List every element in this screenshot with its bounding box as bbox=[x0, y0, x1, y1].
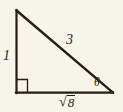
base-label: √8 bbox=[59, 95, 75, 110]
right-angle-marker bbox=[17, 80, 28, 93]
theta-angle-label: θ bbox=[94, 76, 100, 88]
hypotenuse-label: 3 bbox=[66, 33, 73, 47]
radical-sign-icon: √ bbox=[59, 95, 67, 109]
base-radicand: 8 bbox=[67, 95, 76, 110]
vertical-leg-label: 1 bbox=[3, 49, 10, 63]
triangle-figure: 1 3 θ √8 bbox=[0, 0, 123, 112]
